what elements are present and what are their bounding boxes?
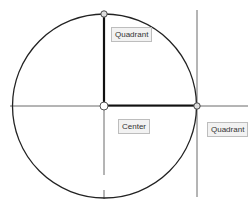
center-label: Center — [118, 119, 150, 134]
center-grip[interactable] — [100, 102, 108, 110]
quadrant-grip-right[interactable] — [194, 103, 200, 109]
quadrant-grip-top[interactable] — [101, 11, 107, 17]
quadrant-right-label: Quadrant — [207, 122, 248, 137]
quadrant-top-label: Quadrant — [111, 27, 152, 42]
